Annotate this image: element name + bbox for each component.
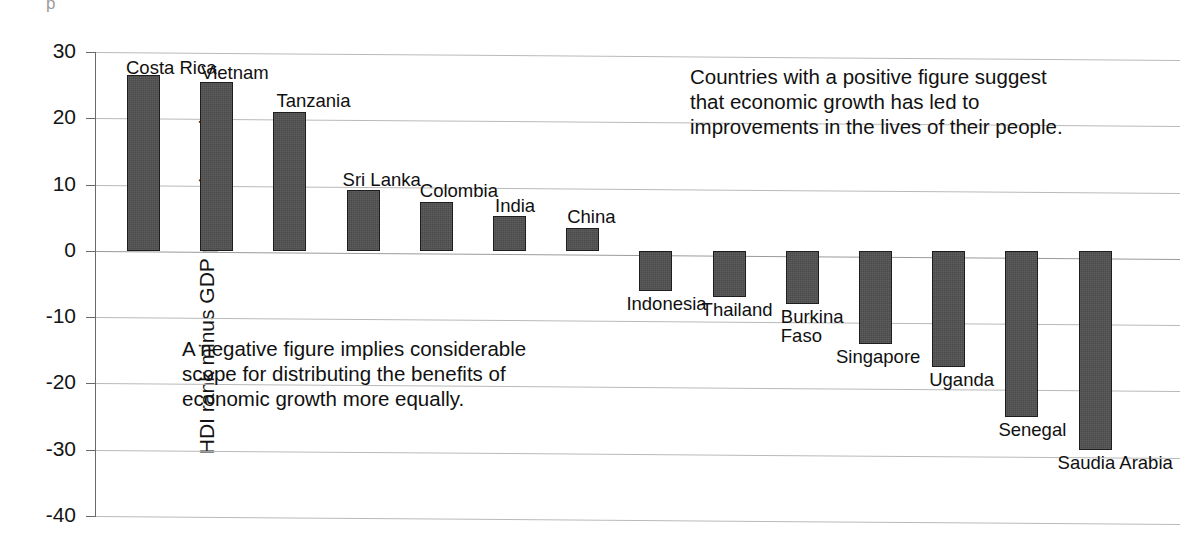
y-tick-label: -10 <box>6 304 76 328</box>
bar <box>786 251 819 304</box>
bar-label-text: Colombia <box>420 181 498 200</box>
bar <box>639 251 672 291</box>
y-tick-mark <box>86 516 96 517</box>
bar-label: Vietnam <box>201 63 269 82</box>
y-tick-label: -20 <box>6 370 76 394</box>
bar <box>200 82 233 251</box>
bar-label: Saudia Arabia <box>1058 453 1173 472</box>
gridline <box>95 450 1180 459</box>
y-tick-label: -40 <box>6 503 76 527</box>
bar-label-text: Sri Lanka <box>343 170 421 189</box>
y-tick-label: 0 <box>6 238 76 262</box>
bar-label-text: Senegal <box>998 420 1066 439</box>
bar <box>1005 251 1038 417</box>
y-tick-mark <box>86 450 96 451</box>
annotation-negative: A negative figure implies considerable s… <box>182 336 526 411</box>
bar <box>273 112 306 251</box>
bar-label-text: India <box>495 196 535 215</box>
bar-label: Senegal <box>998 420 1066 439</box>
bar-label: Thailand <box>702 300 773 319</box>
bar <box>859 251 892 344</box>
bar-label-text: Thailand <box>702 300 773 319</box>
bar-label: Colombia <box>420 181 498 200</box>
bar-label-text: Singapore <box>836 347 920 366</box>
bar <box>493 216 526 250</box>
y-tick-mark <box>86 383 96 384</box>
y-axis-line <box>95 52 96 516</box>
y-tick-mark <box>86 317 96 318</box>
gridline <box>95 52 1180 61</box>
bar-label-text: Uganda <box>929 370 994 389</box>
bar <box>347 190 380 251</box>
y-tick-mark <box>86 251 96 252</box>
y-tick-mark <box>86 52 96 53</box>
y-tick-label: 20 <box>6 105 76 129</box>
bar-label: BurkinaFaso <box>781 307 844 345</box>
bar-label-text: Saudia Arabia <box>1058 453 1173 472</box>
bar-label-text: Indonesia <box>626 294 706 313</box>
chart-figure: p HDI rank minus GDP per capita rank 302… <box>0 0 1187 554</box>
bar-label: Tanzania <box>276 91 350 110</box>
y-tick-label: 30 <box>6 39 76 63</box>
bar <box>932 251 965 367</box>
bar-label-text: Faso <box>781 326 844 345</box>
bar-label: Uganda <box>929 370 994 389</box>
y-tick-label: 10 <box>6 172 76 196</box>
gridline <box>95 185 1180 194</box>
y-tick-mark <box>86 185 96 186</box>
bar-label: Indonesia <box>626 294 706 313</box>
bar-label: Sri Lanka <box>343 170 421 189</box>
bar-label-text: China <box>567 207 615 226</box>
bar-label: China <box>567 207 615 226</box>
bar <box>1079 251 1112 450</box>
bar <box>127 75 160 251</box>
bar-label-text: Vietnam <box>201 63 269 82</box>
y-tick-mark <box>86 118 96 119</box>
bar-label-text: Burkina <box>781 307 844 326</box>
annotation-positive: Countries with a positive figure suggest… <box>690 64 1063 139</box>
scan-artifact-glyph: p <box>46 0 56 14</box>
y-tick-label: -30 <box>6 437 76 461</box>
bar-label-text: Tanzania <box>276 91 350 110</box>
gridline <box>95 516 1180 525</box>
bar <box>566 228 599 251</box>
bar <box>420 202 453 250</box>
bar <box>713 251 746 297</box>
bar-label: Singapore <box>836 347 920 366</box>
bar-label: India <box>495 196 535 215</box>
